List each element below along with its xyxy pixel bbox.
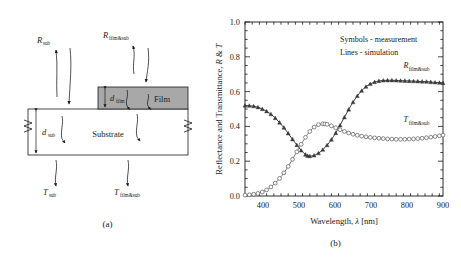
axis-tick-labels: 4005006007008009000.00.20.40.60.81.0 [230, 18, 450, 210]
curve-label-subscript: film&sub [409, 66, 430, 72]
svg-text:Wavelength, λ [nm]: Wavelength, λ [nm] [310, 216, 378, 226]
data-point-marker [347, 131, 351, 135]
data-point-marker [278, 177, 282, 181]
y-tick-label: 1.0 [230, 18, 240, 27]
curve-label-R_film&sub: Rfilm&sub [402, 61, 429, 72]
y-tick-label: 0.4 [230, 122, 241, 131]
data-point-marker [412, 137, 416, 141]
x-axis-title-unit: [nm] [359, 216, 378, 226]
film-layer-label: Film [154, 94, 170, 104]
data-point-marker [291, 157, 295, 161]
data-point-marker [269, 185, 273, 189]
data-point-marker [312, 125, 316, 129]
substrate-layer-label: Substrate [92, 129, 124, 139]
data-point-marker [330, 124, 334, 128]
y-axis-title: Reflectance and Transmittance, R & T [214, 42, 224, 174]
data-point-marker [334, 126, 338, 130]
data-point-marker [441, 133, 445, 137]
data-point-marker [377, 136, 381, 140]
data-point-marker [390, 137, 394, 141]
data-point-marker [368, 82, 372, 86]
data-point-marker [304, 135, 308, 139]
svg-text:sub: sub [48, 132, 56, 138]
y-tick-label: 0.6 [230, 88, 240, 97]
svg-text:film&sub: film&sub [120, 192, 140, 198]
data-point-marker [247, 193, 251, 197]
curve-label-base: T [403, 115, 408, 124]
data-point-marker [373, 136, 377, 140]
x-axis-title: Wavelength, λ [nm] [310, 216, 378, 226]
data-point-marker [438, 134, 442, 138]
data-point-marker [429, 135, 433, 139]
data-point-marker [381, 137, 385, 141]
series-T_film&sub [243, 122, 445, 197]
schematic-svg: Film Substrate d film d sub R sub R film… [0, 0, 215, 215]
curve-label-T_film&sub: Tfilm&sub [403, 115, 429, 126]
data-point-marker [299, 142, 303, 146]
t-film-sub-label: T film&sub [114, 187, 140, 198]
data-series [243, 78, 445, 197]
data-point-marker [334, 131, 338, 135]
data-point-marker [425, 136, 429, 140]
t-sub-label: T sub [43, 187, 57, 198]
data-point-marker [399, 137, 403, 141]
r-sub-label: R sub [36, 35, 51, 46]
data-point-marker [256, 191, 260, 195]
data-point-marker [364, 135, 368, 139]
data-point-marker [420, 136, 424, 140]
figure-container: Film Substrate d film d sub R sub R film… [0, 0, 461, 257]
data-point-marker [342, 115, 346, 119]
data-point-marker [433, 135, 437, 139]
data-point-marker [317, 123, 321, 127]
svg-text:R: R [36, 35, 43, 45]
data-point-marker [386, 137, 390, 141]
data-point-marker [338, 128, 342, 132]
data-point-marker [407, 137, 411, 141]
curve-label-subscript: film&sub [409, 120, 430, 126]
caption-panel-b: (b) [210, 238, 461, 248]
data-point-marker [368, 135, 372, 139]
data-point-marker [260, 190, 264, 194]
annotation-lines: Lines - simulation [340, 48, 398, 57]
data-point-marker [265, 188, 269, 192]
chart-svg: 4005006007008009000.00.20.40.60.81.0 Rfi… [210, 0, 461, 238]
x-tick-label: 500 [293, 201, 305, 210]
data-point-marker [282, 171, 286, 175]
x-tick-label: 600 [329, 201, 341, 210]
data-point-marker [265, 109, 269, 113]
data-point-marker [394, 137, 398, 141]
svg-text:film&sub: film&sub [109, 35, 129, 41]
x-tick-label: 700 [365, 201, 377, 210]
data-point-marker [295, 150, 299, 154]
data-point-marker [355, 133, 359, 137]
y-axis-title-amp: & [214, 48, 224, 59]
data-point-marker [252, 192, 256, 196]
data-point-marker [351, 132, 355, 136]
y-tick-label: 0.8 [230, 53, 240, 62]
data-point-marker [338, 123, 342, 127]
data-point-marker [342, 130, 346, 134]
data-point-marker [360, 134, 364, 138]
svg-text:sub: sub [49, 192, 57, 198]
y-tick-label: 0.0 [230, 192, 240, 201]
data-point-marker [243, 193, 247, 197]
data-point-marker [416, 137, 420, 141]
y-tick-label: 0.2 [230, 157, 240, 166]
data-point-marker [403, 137, 407, 141]
curve-label-base: R [402, 61, 408, 70]
panel-b-chart: 4005006007008009000.00.20.40.60.81.0 Rfi… [210, 0, 461, 257]
x-axis-title-prefix: Wavelength, [310, 216, 355, 226]
y-axis-title-t: T [214, 42, 224, 48]
x-tick-label: 900 [437, 201, 449, 210]
y-axis-title-prefix: Reflectance and Transmittance, [214, 64, 224, 174]
annotation-symbols: Symbols - measurement [340, 35, 418, 44]
series-labels: Rfilm&subTfilm&sub [402, 61, 429, 126]
x-tick-label: 800 [401, 201, 413, 210]
data-point-marker [286, 165, 290, 169]
data-point-marker [308, 130, 312, 134]
caption-panel-a: (a) [0, 219, 215, 229]
svg-text:sub: sub [43, 40, 51, 46]
svg-text:R: R [102, 30, 109, 40]
data-point-marker [325, 122, 329, 126]
data-point-marker [347, 108, 351, 112]
